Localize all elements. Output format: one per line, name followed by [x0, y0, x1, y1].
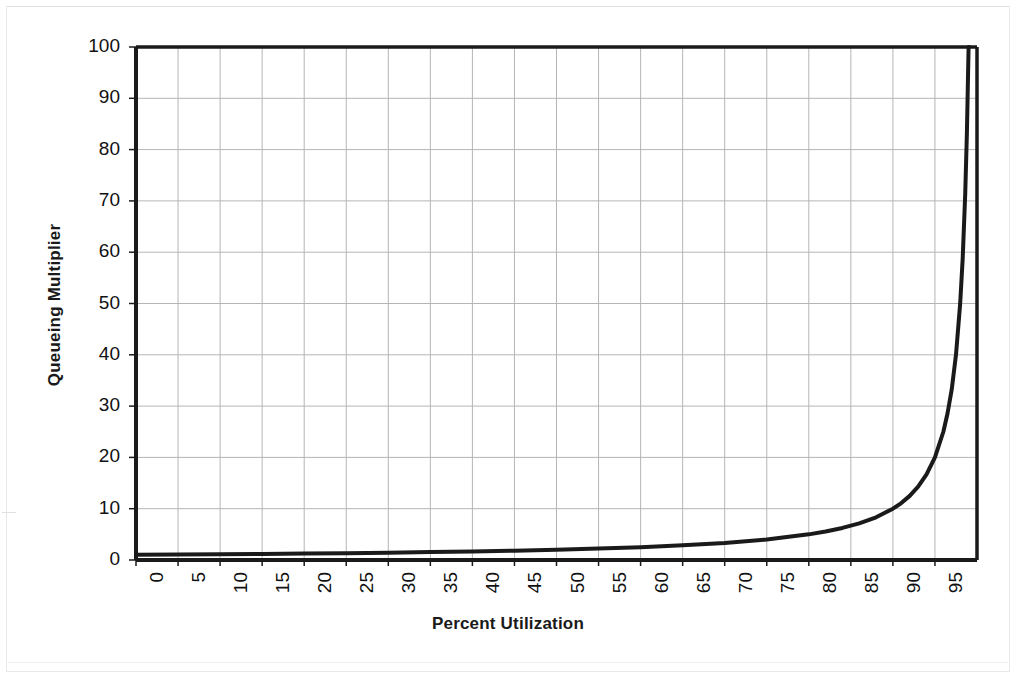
y-tick-label: 100	[62, 35, 120, 57]
y-tick-label: 30	[62, 394, 120, 416]
y-axis-title: Queueing Multiplier	[45, 190, 65, 420]
y-tick-label: 70	[62, 189, 120, 211]
y-tick-label: 0	[62, 548, 120, 570]
data-series-line	[136, 47, 969, 555]
y-tick-label: 10	[62, 497, 120, 519]
chart-figure: 0102030405060708090100 05101520253035404…	[0, 0, 1016, 679]
y-tick-label: 90	[62, 86, 120, 108]
x-axis-title: Percent Utilization	[0, 614, 1016, 634]
y-tick-label: 20	[62, 445, 120, 467]
y-tick-label: 80	[62, 138, 120, 160]
y-tick-label: 60	[62, 240, 120, 262]
y-tick-label: 50	[62, 292, 120, 314]
y-tick-label: 40	[62, 343, 120, 365]
